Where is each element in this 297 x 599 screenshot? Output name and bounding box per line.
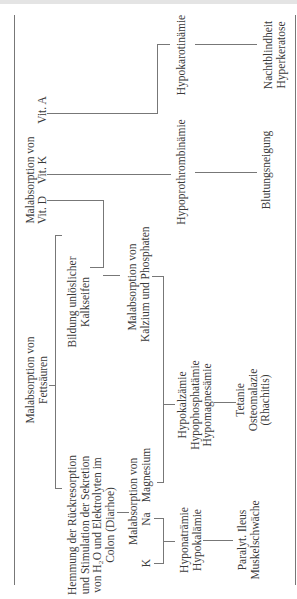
node-label: Vit. A bbox=[36, 93, 49, 127]
node-label: Malabsorption von bbox=[127, 465, 140, 545]
node-label: Hypokalzämie bbox=[176, 350, 189, 460]
connector bbox=[47, 174, 171, 175]
connector bbox=[195, 172, 257, 173]
node-label: Osteomalazie bbox=[247, 360, 260, 440]
node-k: K bbox=[140, 556, 153, 570]
node-vit-d: Vit. D bbox=[36, 193, 49, 227]
node-elektrolyte-header: Malabsorption von bbox=[127, 465, 140, 545]
node-kalkseifen: Bildung unlöslicher Kalkseifen bbox=[66, 252, 91, 352]
node-label: Nachtblindheit bbox=[262, 10, 275, 100]
node-label: Hypoprothrombinämie bbox=[175, 112, 188, 232]
node-label: Hypokalämie bbox=[191, 500, 204, 580]
node-label: Blutungsneigung bbox=[260, 125, 273, 215]
node-label: Fettsäuren bbox=[37, 335, 50, 425]
node-blutungsneigung: Blutungsneigung bbox=[260, 125, 273, 215]
node-label: Kalzium und Phosphaten bbox=[139, 232, 152, 342]
connector bbox=[214, 402, 236, 403]
connector bbox=[203, 540, 233, 541]
connector bbox=[103, 200, 104, 268]
connector bbox=[47, 113, 158, 114]
node-magnesium: Magnesium bbox=[140, 445, 153, 505]
node-vit-k: Vit. K bbox=[36, 153, 49, 187]
node-label: von H₂O und Elektrolyten im bbox=[91, 450, 104, 599]
connector bbox=[55, 235, 62, 236]
node-label: Vit. D bbox=[36, 193, 49, 227]
node-vit-a: Vit. A bbox=[36, 93, 49, 127]
right-rule bbox=[295, 15, 296, 585]
connector bbox=[163, 276, 164, 483]
node-label: Malabsorption von bbox=[126, 232, 139, 342]
connector bbox=[103, 275, 120, 276]
connector bbox=[157, 44, 170, 45]
connector bbox=[195, 44, 257, 45]
connector bbox=[90, 267, 104, 268]
node-hyponatraemie: Hyponaträmie Hypokalämie bbox=[178, 500, 203, 580]
node-label: Hemmung der Rückresorption bbox=[66, 450, 79, 599]
node-label: und Stimulation der Sekretion bbox=[79, 450, 92, 599]
connector bbox=[157, 44, 158, 114]
connector bbox=[157, 482, 164, 483]
connector bbox=[47, 200, 104, 201]
node-na: Na bbox=[140, 511, 153, 527]
node-hemmung: Hemmung der Rückresorption und Stimulati… bbox=[66, 450, 116, 599]
node-label: Malabsorption von bbox=[24, 335, 37, 425]
node-label: Hyponaträmie bbox=[178, 500, 191, 580]
node-label: Hypophosphatämie bbox=[189, 350, 202, 460]
node-label: Muskelschwäche bbox=[249, 490, 262, 590]
node-kalzium: Malabsorption von Kalzium und Phosphaten bbox=[126, 232, 151, 342]
node-label: Malabsorption von bbox=[24, 135, 37, 225]
node-hypokarotinaemie: Hypokarotinämie bbox=[175, 10, 188, 100]
node-label: Hypokarotinämie bbox=[175, 10, 188, 100]
connector bbox=[55, 488, 62, 489]
node-label: Vit. K bbox=[36, 153, 49, 187]
node-label: Bildung unlöslicher bbox=[66, 252, 79, 352]
connector bbox=[163, 541, 175, 542]
node-label: Na bbox=[140, 511, 153, 527]
node-label: Hypomagnesämie bbox=[201, 350, 214, 460]
connector bbox=[55, 235, 56, 489]
node-nachtblindheit: Nachtblindheit Hyperkeratose bbox=[262, 10, 287, 100]
node-hypoprothrombinaemie: Hypoprothrombinämie bbox=[175, 112, 188, 232]
node-tetanie: Tetanie Osteomalazie (Rhachitis) bbox=[234, 360, 272, 440]
top-rule bbox=[0, 0, 297, 4]
node-vitamine-header: Malabsorption von bbox=[24, 135, 37, 225]
node-label: Magnesium bbox=[140, 445, 153, 505]
node-fettsaeuren: Malabsorption von Fettsäuren bbox=[24, 335, 49, 425]
left-rule bbox=[14, 15, 15, 585]
node-label: Tetanie bbox=[234, 360, 247, 440]
node-label: Hyperkeratose bbox=[275, 10, 288, 100]
node-label: K bbox=[140, 556, 153, 570]
node-label: Paralyt. Ileus bbox=[236, 490, 249, 590]
connector bbox=[163, 404, 175, 405]
node-label: Colon (Diarhoe) bbox=[104, 450, 117, 599]
node-label: (Rhachitis) bbox=[259, 360, 272, 440]
node-ileus: Paralyt. Ileus Muskelschwäche bbox=[236, 490, 261, 590]
node-hypokalzaemie: Hypokalzämie Hypophosphatämie Hypomagnes… bbox=[176, 350, 214, 460]
